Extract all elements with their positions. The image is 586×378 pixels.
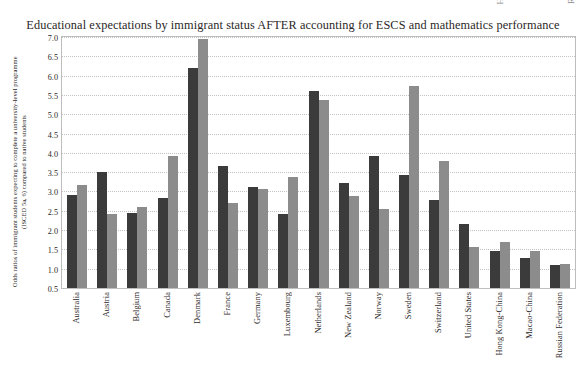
y-axis-tick-label: 6.0 [48,72,58,81]
bar [228,203,238,288]
x-axis-tick-label: France [223,292,232,315]
bar-group [248,37,268,288]
x-axis-labels: AustraliaAustriaBelgiumCanadaDenmarkFran… [61,292,576,378]
x-axis-tick-label: Netherlands [314,292,323,334]
bar [107,214,117,288]
bar [127,213,137,288]
bar-group [97,37,117,288]
bar-group [550,37,570,288]
bar [67,195,77,288]
bar [168,156,178,288]
x-axis-tick-label: Canada [163,292,172,318]
bleed-mark-0: H [495,0,505,5]
y-axis-tick-label: 7.0 [48,34,58,43]
y-axis-tick-label: 2.5 [48,207,58,216]
bar [288,177,298,288]
bar-group [127,37,147,288]
bar [429,200,439,288]
bar-series-container [62,37,575,288]
bar [550,265,560,288]
bar-group [309,37,329,288]
plot-area: 7.06.56.05.55.04.54.03.53.02.52.01.51.00… [61,36,576,289]
bar [218,166,228,288]
x-axis-tick-label: Switzerland [434,292,443,333]
bar [439,161,449,288]
bar-group [459,37,479,288]
gridline: 0.5 [62,288,575,289]
y-axis-tick-label: 2.0 [48,227,58,236]
bar [77,185,87,288]
bar [319,100,329,288]
bar [469,247,479,288]
bar [97,172,107,288]
bar [500,242,510,288]
x-axis-tick-label: Germany [253,292,262,324]
x-axis-tick-label: Norway [374,292,383,320]
bar-group [158,37,178,288]
x-axis-tick-label: Russian Federation [555,292,564,358]
x-axis-tick-label: Macao-China [525,292,534,339]
bar [459,224,469,288]
y-axis-tick-label: 1.0 [48,265,58,274]
y-axis-tick-label: 5.5 [48,91,58,100]
y-axis-tick-label: 0.5 [48,285,58,294]
y-axis-tick-label: 3.0 [48,188,58,197]
bar [258,189,268,288]
x-axis-tick-label: Luxembourg [283,292,292,336]
y-axis-title-text: Odds ratios of immigrant students expect… [10,52,28,292]
bar-group [399,37,419,288]
bar-group [490,37,510,288]
y-axis-tick-label: 4.0 [48,149,58,158]
x-axis-tick-label: Denmark [193,292,202,324]
bar [248,187,258,288]
bar [339,183,349,288]
bleed-mark-1: R [566,0,576,4]
bar [188,68,198,288]
x-axis-tick-label: Austria [102,292,111,317]
bar [560,264,570,288]
bar-group [188,37,208,288]
bar-group [429,37,449,288]
y-axis-tick-label: 6.5 [48,53,58,62]
bar-group [369,37,389,288]
x-axis-tick-label: New Zealand [344,292,353,338]
bar [369,156,379,288]
bar [198,39,208,288]
chart-title: Educational expectations by immigrant st… [0,18,586,33]
bar-group [67,37,87,288]
x-axis-tick-label: United States [464,292,473,338]
y-axis-tick-label: 4.5 [48,130,58,139]
bar [399,175,409,288]
page-bleed-marks: H R [0,0,586,14]
bar-group [218,37,238,288]
bar [530,251,540,288]
bar-group [520,37,540,288]
bar-group [339,37,359,288]
y-axis-tick-label: 5.0 [48,111,58,120]
bar [520,258,530,288]
y-axis-tick-label: 1.5 [48,246,58,255]
bar-group [278,37,298,288]
x-axis-tick-label: Australia [72,292,81,324]
bar [349,196,359,288]
y-axis-tick-label: 3.5 [48,169,58,178]
y-axis-title: Odds ratios of immigrant students expect… [8,52,30,292]
bar [137,207,147,288]
x-axis-tick-label: Belgium [132,292,141,322]
bar [409,86,419,288]
bar [278,214,288,288]
bar [379,209,389,288]
x-axis-tick-label: Sweden [404,292,413,319]
bar [309,91,319,288]
x-axis-tick-label: Hong Kong-China [495,292,504,356]
bar [158,198,168,288]
bar [490,251,500,288]
